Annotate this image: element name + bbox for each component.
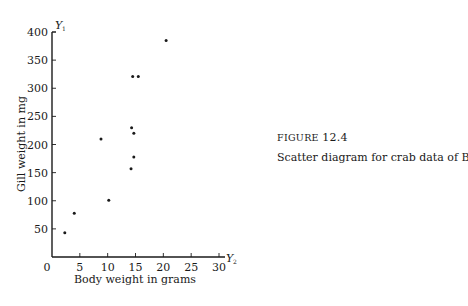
- data-points: [63, 39, 167, 234]
- y-tick-label: 300: [27, 82, 48, 95]
- tick-marks: [52, 32, 219, 257]
- data-point: [99, 137, 102, 140]
- y-tick-label: 50: [34, 223, 48, 236]
- y-axis-subscript: 1: [62, 25, 66, 32]
- y-tick-label: 100: [27, 195, 48, 208]
- data-point: [63, 231, 66, 234]
- data-point: [130, 126, 133, 129]
- data-point: [73, 212, 76, 215]
- data-point: [107, 199, 110, 202]
- y-tick-label: 350: [27, 54, 48, 67]
- data-point: [131, 75, 134, 78]
- figure-caption: FIGURE 12.4 Scatter diagram for crab dat…: [277, 131, 467, 164]
- figure-description: Scatter diagram for crab data of Box 12.…: [277, 151, 467, 164]
- y-tick-label: 400: [27, 26, 48, 39]
- y-tick-label: 200: [27, 139, 48, 152]
- figure-label: FIGURE 12.4: [277, 131, 467, 144]
- data-point: [130, 167, 133, 170]
- data-point: [132, 155, 135, 158]
- x-axis-subscript: 2: [233, 258, 237, 265]
- figure-label-text: FIGURE: [277, 132, 319, 143]
- axes: [52, 32, 225, 257]
- tick-labels: 05101520253050100150200250300350400: [27, 26, 226, 274]
- figure-number: 12.4: [322, 131, 348, 144]
- data-point: [132, 132, 135, 135]
- x-tick-label: 0: [44, 261, 51, 274]
- y-tick-label: 250: [27, 110, 48, 123]
- x-axis-label: Body weight in grams: [74, 273, 196, 286]
- y-tick-label: 150: [27, 167, 48, 180]
- data-point: [137, 75, 140, 78]
- x-tick-label: 30: [212, 261, 226, 274]
- scatter-plot: 05101520253050100150200250300350400 Y 1 …: [0, 0, 260, 306]
- y-axis-label: Gill weight in mg: [15, 96, 28, 192]
- data-point: [165, 39, 168, 42]
